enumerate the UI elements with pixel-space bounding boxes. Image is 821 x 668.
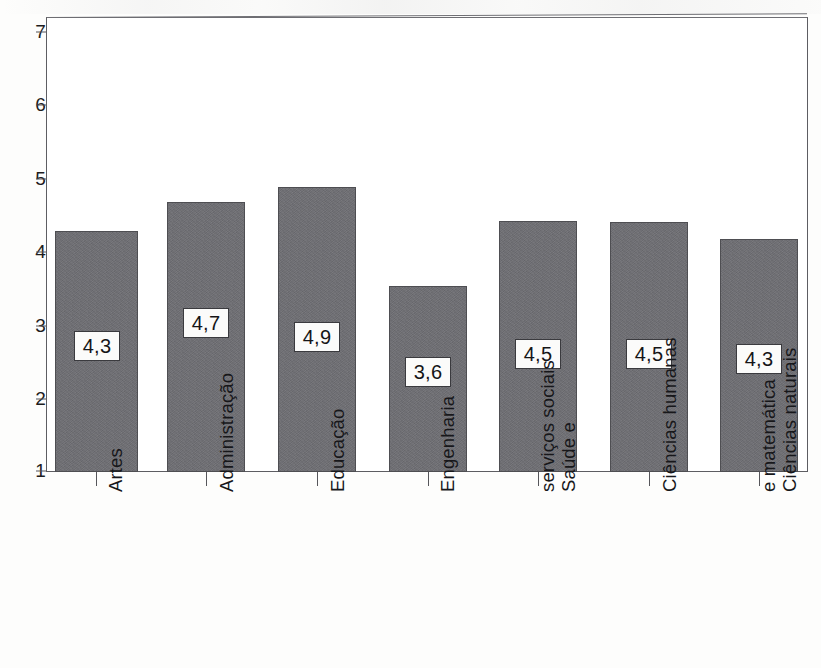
y-tick-mark-6: [36, 105, 46, 106]
bar-chart-figure: 7 6 5 4 3 2 1 4,3 4,7 4,9 3,6 4,5 4,5 4,…: [0, 0, 821, 668]
x-label-ciencias-humanas-line-1: Ciências humanas: [659, 337, 680, 492]
x-label-saude-line-1: Saúde e: [558, 360, 579, 492]
y-tick-mark-1: [36, 471, 46, 472]
y-tick-mark-3: [36, 326, 46, 327]
y-tick-mark-5: [36, 179, 46, 180]
y-tick-mark-4: [36, 252, 46, 253]
x-tick-mark-4: [428, 472, 429, 486]
x-label-engenharia-line-1: Engenharia: [437, 396, 458, 492]
x-label-ciencias-naturais-line-1: Ciências naturais: [779, 348, 800, 492]
value-label-engenharia: 3,6: [405, 357, 451, 387]
x-label-administracao-line-1: Administração: [216, 373, 237, 492]
x-label-artes-line-1: Artes: [105, 448, 126, 492]
x-label-ciencias-naturais-line-2: e matemática: [758, 348, 779, 492]
value-label-educacao: 4,9: [294, 322, 340, 352]
y-tick-mark-7: [36, 32, 46, 33]
x-label-educacao-line-1: Educação: [327, 409, 348, 492]
value-label-administracao: 4,7: [183, 308, 229, 338]
y-tick-mark-2: [36, 399, 46, 400]
x-label-saude-line-2: serviços sociais: [537, 360, 558, 492]
x-tick-mark-6: [649, 472, 650, 486]
x-tick-mark-3: [317, 472, 318, 486]
scan-artifact: [0, 0, 821, 14]
x-tick-mark-2: [206, 472, 207, 486]
x-tick-mark-1: [96, 472, 97, 486]
value-label-artes: 4,3: [74, 331, 120, 361]
y-axis: 7 6 5 4 3 2 1: [0, 0, 46, 668]
